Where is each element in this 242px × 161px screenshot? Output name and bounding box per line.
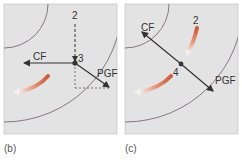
label-pgf: PGF	[97, 68, 118, 79]
panel-b: 2 3 CF PGF (b)	[0, 0, 122, 154]
panel-caption-c: (c)	[125, 143, 137, 154]
diagram: 2 3 CF PGF (b) 2 4 CF PGF (c)	[0, 0, 242, 161]
label-pgf: PGF	[215, 75, 236, 86]
label-point: 3	[78, 53, 84, 64]
label-point: 4	[173, 67, 179, 78]
parcel-point	[179, 62, 184, 67]
label-cf: CF	[33, 51, 46, 62]
label-start: 2	[193, 15, 199, 26]
label-start: 2	[72, 10, 78, 21]
parcel-point	[72, 60, 77, 65]
label-cf: CF	[141, 22, 154, 33]
panel-caption-b: (b)	[4, 143, 16, 154]
